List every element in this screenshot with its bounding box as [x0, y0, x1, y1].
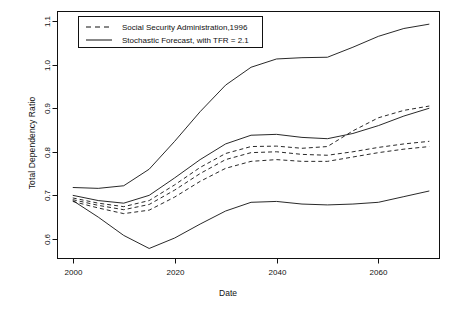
x-tick-label: 2060 — [370, 268, 388, 277]
series-line — [73, 147, 430, 214]
y-tick-label: 1.0 — [43, 59, 52, 71]
series-line — [73, 191, 430, 249]
chart-legend: Social Security Administration,1996 Stoc… — [79, 17, 263, 48]
x-axis: 2000202020402060 — [65, 259, 388, 277]
series-line — [73, 141, 430, 209]
series-line — [73, 106, 430, 207]
y-tick-label: 0.8 — [43, 146, 52, 158]
plot-frame — [58, 12, 440, 259]
line-chart-canvas: 0.60.70.80.91.01.1 2000202020402060 Soci… — [0, 0, 456, 310]
series-line — [73, 24, 430, 188]
x-tick-label: 2040 — [269, 268, 287, 277]
y-axis: 0.60.70.80.91.01.1 — [43, 15, 58, 245]
legend-label-stochastic: Stochastic Forecast, with TFR = 2.1 — [122, 36, 249, 45]
y-tick-label: 0.6 — [43, 233, 52, 245]
series-group — [73, 24, 430, 248]
series-line — [73, 108, 430, 203]
x-tick-label: 2000 — [65, 268, 83, 277]
legend-label-ssa: Social Security Administration,1996 — [122, 23, 248, 32]
y-tick-label: 1.1 — [43, 15, 52, 27]
y-tick-label: 0.7 — [43, 189, 52, 201]
x-tick-label: 2020 — [167, 268, 185, 277]
chart-figure: 0.60.70.80.91.01.1 2000202020402060 Soci… — [0, 0, 456, 310]
y-tick-label: 0.9 — [43, 102, 52, 114]
y-axis-title: Total Dependency Ratio — [27, 63, 37, 223]
x-axis-title: Date — [0, 288, 456, 298]
